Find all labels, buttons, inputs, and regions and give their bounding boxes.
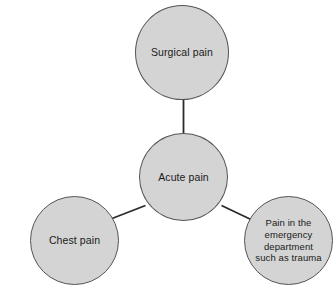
node-emergency-pain[interactable]: Pain in the emergency department such as… bbox=[244, 196, 333, 285]
node-emergency-pain-label: Pain in the emergency department such as… bbox=[255, 217, 321, 263]
node-chest-pain-label: Chest pain bbox=[49, 234, 100, 247]
node-acute-pain-label: Acute pain bbox=[158, 171, 209, 184]
node-surgical-pain-label: Surgical pain bbox=[151, 46, 213, 59]
node-acute-pain[interactable]: Acute pain bbox=[139, 133, 228, 221]
node-surgical-pain[interactable]: Surgical pain bbox=[135, 5, 229, 100]
diagram-canvas: Surgical pain Acute pain Chest pain Pain… bbox=[0, 0, 335, 294]
edge-acute-emergency bbox=[222, 206, 253, 221]
edge-acute-chest bbox=[112, 206, 146, 219]
node-chest-pain[interactable]: Chest pain bbox=[30, 196, 119, 285]
